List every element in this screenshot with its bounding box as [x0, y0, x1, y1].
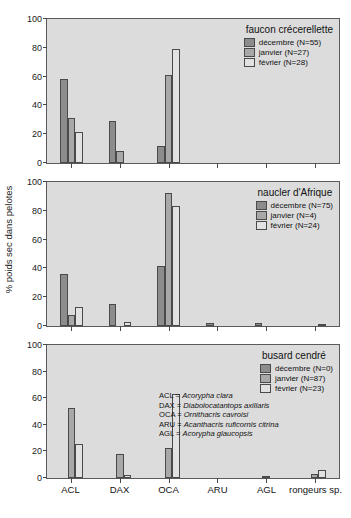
legend-swatch-fevrier-icon	[244, 58, 255, 67]
y-tick-mark	[43, 397, 47, 398]
y-tick-label: 100	[27, 182, 42, 183]
y-tick-label: 60	[32, 239, 42, 240]
species-key-name: Acorypha glaucopsis	[183, 429, 253, 438]
x-tick-mark	[266, 326, 267, 331]
bar-oca-s1	[165, 448, 173, 478]
x-tick-label-aru: ARU	[207, 484, 227, 495]
x-tick-mark	[217, 326, 218, 331]
y-tick-label: 60	[32, 76, 42, 77]
species-key-abbr: AGL =	[159, 429, 183, 438]
bar-rongeurssp-s2	[318, 324, 326, 326]
y-tick-mark	[43, 477, 47, 478]
bar-acl-s0	[60, 274, 68, 326]
x-tick-label-oca: OCA	[158, 484, 179, 495]
legend-title-0: faucon crécerellette	[246, 24, 333, 35]
bar-oca-s1	[165, 193, 173, 326]
y-tick-label: 80	[32, 371, 42, 372]
y-tick-label: 40	[32, 105, 42, 106]
y-tick-mark	[43, 325, 47, 326]
species-key-abbr: OCA =	[159, 410, 184, 419]
bar-acl-s2	[75, 307, 83, 326]
x-tick-mark	[217, 478, 218, 483]
legend-item-janvier-0: janvier (N=27)	[244, 48, 333, 57]
legend-title-2: busard cendré	[262, 350, 333, 361]
x-tick-mark	[71, 478, 72, 483]
y-tick-mark	[43, 181, 47, 182]
species-key-name: Diabolocatantops axillaris	[183, 401, 269, 410]
bar-rongeurssp-s2	[318, 470, 326, 478]
x-tick-mark	[120, 478, 121, 483]
y-tick-mark	[43, 267, 47, 268]
x-axis-labels: ACLDAXOCAARUAGLrongeurs sp.	[46, 484, 340, 500]
y-tick-label: 0	[37, 163, 42, 164]
species-abbreviation-key: ACL = Acorypha claraDAX = Diabolocatanto…	[159, 391, 279, 439]
legend-label-janvier-1: janvier (N=4)	[271, 211, 317, 220]
x-tick-label-rongeurssp: rongeurs sp.	[289, 484, 342, 495]
bar-acl-s1	[68, 315, 76, 326]
x-tick-mark	[120, 326, 121, 331]
species-key-row: OCA = Ornithacris cavroisi	[159, 410, 279, 420]
bar-acl-s0	[60, 79, 68, 163]
y-tick-label: 80	[32, 210, 42, 211]
legend-swatch-fevrier-icon	[256, 221, 267, 230]
y-tick-mark	[43, 450, 47, 451]
bar-dax-s0	[109, 121, 117, 163]
y-tick-mark	[43, 344, 47, 345]
bar-oca-s0	[157, 146, 165, 163]
x-tick-mark	[71, 326, 72, 331]
species-key-name: Acanthacris ruficornis citrina	[184, 420, 279, 429]
legend-item-decembre-1: décembre (N=75)	[256, 201, 333, 210]
y-tick-mark	[43, 162, 47, 163]
bar-aru-s0	[206, 323, 214, 326]
bar-oca-s2	[172, 206, 180, 326]
legend-label-fevrier-1: février (N=24)	[271, 221, 320, 230]
bar-rongeurssp-s1	[311, 474, 319, 478]
bar-acl-s2	[75, 132, 83, 163]
x-tick-mark	[120, 163, 121, 168]
legend-item-fevrier-0: février (N=28)	[244, 58, 333, 67]
legend-swatch-janvier-icon	[244, 48, 255, 57]
y-tick-label: 0	[37, 326, 42, 327]
x-tick-mark	[217, 163, 218, 168]
legend-item-janvier-2: janvier (N=87)	[260, 374, 333, 383]
legend-swatch-decembre-icon	[244, 38, 255, 47]
legend-item-decembre-0: décembre (N=55)	[244, 38, 333, 47]
legend-swatch-decembre-icon	[256, 201, 267, 210]
x-tick-mark	[266, 163, 267, 168]
bar-dax-s2	[124, 475, 132, 478]
bar-dax-s1	[116, 151, 124, 163]
panel-faucon-crecerellette: 020406080100 faucon crécerellette décemb…	[46, 18, 340, 164]
x-tick-mark	[315, 163, 316, 168]
legend-label-decembre-2: décembre (N=0)	[275, 364, 333, 373]
x-tick-label-dax: DAX	[110, 484, 130, 495]
x-tick-mark	[169, 163, 170, 168]
x-tick-mark	[315, 478, 316, 483]
x-tick-mark	[71, 163, 72, 168]
x-tick-mark	[315, 326, 316, 331]
y-tick-label: 60	[32, 398, 42, 399]
panel-naucler-dafrique: 020406080100 naucler d'Afrique décembre …	[46, 181, 340, 327]
x-tick-mark	[169, 478, 170, 483]
legend-0: faucon crécerellette décembre (N=55) jan…	[244, 24, 333, 68]
y-tick-label: 80	[32, 47, 42, 48]
bar-dax-s2	[124, 322, 132, 326]
y-tick-mark	[43, 371, 47, 372]
x-tick-mark	[169, 326, 170, 331]
legend-item-decembre-2: décembre (N=0)	[260, 364, 333, 373]
species-key-name: Acorypha clara	[182, 391, 233, 400]
legend-label-decembre-0: décembre (N=55)	[259, 38, 321, 47]
legend-item-fevrier-1: février (N=24)	[256, 221, 333, 230]
legend-swatch-decembre-icon	[260, 364, 271, 373]
y-tick-label: 100	[27, 19, 42, 20]
y-tick-label: 20	[32, 134, 42, 135]
bar-dax-s0	[109, 304, 117, 326]
y-tick-mark	[43, 47, 47, 48]
species-key-row: ACL = Acorypha clara	[159, 391, 279, 401]
bar-oca-s1	[165, 75, 173, 163]
species-key-name: Ornithacris cavroisi	[184, 410, 249, 419]
chart-figure: % poids sec dans pelotes 020406080100 fa…	[0, 0, 351, 518]
species-key-row: AGL = Acorypha glaucopsis	[159, 429, 279, 439]
legend-label-decembre-1: décembre (N=75)	[271, 201, 333, 210]
legend-title-1: naucler d'Afrique	[258, 187, 333, 198]
panel-busard-cendre: 020406080100 busard cendré décembre (N=0…	[46, 344, 340, 479]
